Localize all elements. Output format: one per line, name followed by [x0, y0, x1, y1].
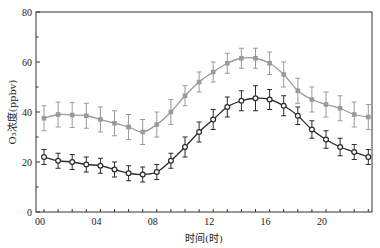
y-axis-title: O₃浓度(ppbv)	[6, 79, 18, 144]
y-tick-label: 40	[22, 107, 32, 118]
square-marker-icon	[56, 112, 61, 117]
square-marker-icon	[126, 125, 131, 130]
square-marker-icon	[324, 102, 329, 107]
circle-marker-icon	[183, 145, 188, 150]
square-marker-icon	[112, 121, 117, 126]
x-tick-label: 00	[35, 216, 45, 227]
square-marker-icon	[98, 117, 103, 122]
circle-marker-icon	[253, 96, 258, 101]
circle-marker-icon	[352, 150, 357, 155]
x-tick-label: 20	[317, 216, 327, 227]
square-marker-icon	[155, 122, 160, 127]
square-marker-icon	[183, 93, 188, 98]
circle-marker-icon	[140, 172, 145, 177]
circle-marker-icon	[338, 145, 343, 150]
x-tick-label: 16	[261, 216, 271, 227]
x-tick-label: 04	[91, 216, 101, 227]
square-marker-icon	[338, 106, 343, 111]
circle-marker-icon	[169, 158, 174, 163]
gray-series	[42, 48, 371, 144]
square-marker-icon	[239, 56, 244, 61]
square-marker-icon	[225, 61, 230, 66]
square-marker-icon	[84, 113, 89, 118]
square-marker-icon	[253, 56, 258, 61]
y-tick-label: 20	[22, 157, 32, 168]
square-marker-icon	[70, 113, 75, 118]
circle-marker-icon	[112, 167, 117, 172]
circle-marker-icon	[295, 113, 300, 118]
square-marker-icon	[267, 61, 272, 66]
x-tick-label: 08	[148, 216, 158, 227]
circle-marker-icon	[324, 137, 329, 142]
circle-marker-icon	[84, 162, 89, 167]
circle-marker-icon	[197, 130, 202, 135]
circle-marker-icon	[126, 171, 131, 176]
square-marker-icon	[197, 80, 202, 85]
square-marker-icon	[42, 116, 47, 121]
circle-marker-icon	[267, 97, 272, 102]
circle-marker-icon	[98, 163, 103, 168]
circle-marker-icon	[154, 170, 159, 175]
circle-marker-icon	[310, 127, 315, 132]
square-marker-icon	[281, 72, 286, 77]
series-layer	[42, 48, 371, 182]
series-line	[44, 58, 368, 132]
x-axis-title: 时间(时)	[185, 232, 223, 244]
circle-marker-icon	[281, 103, 286, 108]
square-marker-icon	[310, 97, 315, 102]
circle-marker-icon	[70, 160, 75, 165]
square-marker-icon	[169, 110, 174, 115]
black-series	[42, 86, 371, 182]
circle-marker-icon	[366, 155, 371, 160]
circle-marker-icon	[42, 155, 47, 160]
square-marker-icon	[296, 88, 301, 93]
series-line	[44, 98, 368, 174]
square-marker-icon	[366, 115, 371, 120]
circle-marker-icon	[239, 98, 244, 103]
circle-marker-icon	[56, 158, 61, 163]
x-tick-label: 12	[204, 216, 214, 227]
y-tick-label: 0	[27, 207, 32, 218]
circle-marker-icon	[211, 117, 216, 122]
ozone-diurnal-chart: 020406080000408121620 时间(时) O₃浓度(ppbv)	[0, 0, 380, 248]
square-marker-icon	[140, 130, 145, 135]
square-marker-icon	[352, 112, 357, 117]
circle-marker-icon	[225, 105, 230, 110]
square-marker-icon	[211, 70, 216, 75]
y-tick-label: 80	[22, 7, 32, 18]
y-tick-label: 60	[22, 57, 32, 68]
